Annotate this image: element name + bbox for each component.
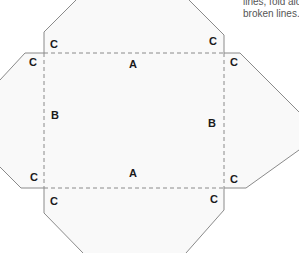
label-c-top-left-upper: C — [50, 39, 58, 50]
instruction-line-1: lines, fold along the — [243, 0, 299, 8]
instruction-note: lines, fold along the broken lines. — [243, 0, 299, 20]
label-a-top: A — [129, 59, 137, 70]
envelope-template-diagram: lines, fold along the broken lines. A A … — [0, 0, 299, 253]
instruction-line-2: broken lines. — [243, 8, 299, 20]
label-c-top-left-side: C — [29, 57, 37, 68]
envelope-net-drawing — [0, 0, 299, 253]
envelope-net-fill — [0, 0, 299, 253]
label-b-left: B — [51, 110, 59, 121]
label-b-right: B — [208, 118, 216, 129]
label-c-top-right-side: C — [230, 57, 238, 68]
label-a-bottom: A — [129, 168, 137, 179]
label-c-bottom-right-lower: C — [210, 194, 218, 205]
label-c-bottom-left-lower: C — [50, 196, 58, 207]
label-c-bottom-right-side: C — [230, 174, 238, 185]
label-c-top-right-upper: C — [209, 36, 217, 47]
label-c-bottom-left-side: C — [30, 172, 38, 183]
